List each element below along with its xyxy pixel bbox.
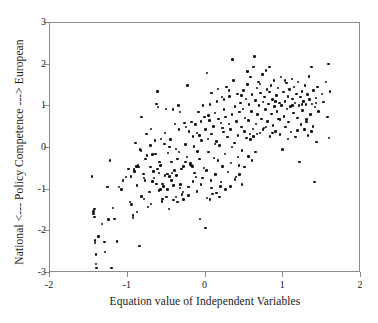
data-point [161, 200, 164, 203]
data-point [196, 150, 199, 153]
data-point [172, 199, 175, 202]
data-point [186, 156, 189, 159]
data-point [174, 123, 177, 126]
data-point [277, 87, 280, 90]
data-point [183, 122, 186, 125]
data-point [199, 218, 202, 221]
data-point [160, 138, 163, 141]
data-point [327, 63, 330, 66]
data-point [250, 110, 253, 113]
data-point [259, 83, 262, 86]
scatter-plot-figure: National <--- Policy Competence ---> Eur… [0, 0, 378, 323]
data-point [283, 115, 286, 118]
data-point [273, 105, 276, 108]
data-point [204, 128, 207, 131]
data-point [218, 196, 221, 199]
data-point [172, 108, 175, 111]
data-point [259, 132, 262, 135]
data-point [252, 128, 255, 131]
data-point [243, 166, 246, 169]
data-point [103, 241, 106, 244]
data-point [101, 223, 104, 226]
data-point [149, 166, 152, 169]
data-point [259, 92, 262, 95]
data-point [132, 217, 135, 220]
data-point [161, 198, 164, 201]
data-point [249, 133, 252, 136]
data-point [178, 151, 181, 154]
data-point [279, 133, 282, 136]
data-point [216, 100, 219, 103]
data-point [136, 184, 139, 187]
data-point [200, 183, 203, 186]
data-point [274, 130, 277, 133]
data-point [171, 172, 174, 175]
data-point [293, 86, 296, 89]
data-point [287, 95, 290, 98]
data-point [109, 159, 112, 162]
data-point [179, 111, 182, 114]
data-point [272, 124, 275, 127]
data-point [185, 126, 188, 129]
data-point [207, 151, 210, 154]
data-point [95, 263, 98, 266]
data-point [150, 128, 153, 131]
data-point [143, 198, 146, 201]
data-point [311, 103, 314, 106]
data-point [151, 153, 154, 156]
data-point [291, 98, 294, 101]
data-point [156, 168, 159, 171]
data-point [275, 94, 278, 97]
data-point [274, 100, 277, 103]
data-point [177, 104, 180, 107]
data-point [232, 79, 235, 82]
data-point [113, 218, 116, 221]
data-point [193, 172, 196, 175]
data-point [175, 196, 178, 199]
data-point [310, 66, 313, 69]
data-point [204, 227, 207, 230]
y-tick-label: -3 [22, 267, 46, 277]
data-point [130, 203, 133, 206]
data-point [154, 153, 157, 156]
data-point [210, 187, 213, 190]
data-point [181, 193, 184, 196]
data-point [266, 120, 269, 123]
data-point [187, 194, 190, 197]
data-point [201, 177, 204, 180]
data-point [234, 178, 237, 181]
data-point [251, 159, 254, 162]
data-point [295, 93, 298, 96]
data-point [243, 130, 246, 133]
data-point [301, 103, 304, 106]
data-point [159, 188, 162, 191]
data-point [249, 138, 252, 141]
data-point [246, 70, 249, 73]
data-point [223, 98, 226, 101]
data-point [302, 100, 305, 103]
data-point [210, 179, 213, 182]
data-point [217, 118, 220, 121]
data-point [179, 187, 182, 190]
data-point [161, 183, 164, 186]
data-point [162, 185, 165, 188]
data-point [229, 185, 232, 188]
data-point [207, 114, 210, 117]
data-point [147, 206, 150, 209]
data-point [179, 183, 182, 186]
data-point [231, 113, 234, 116]
data-point [172, 184, 175, 187]
data-point [279, 118, 282, 121]
data-point [306, 93, 309, 96]
data-point [248, 103, 251, 106]
data-point [238, 111, 241, 114]
data-point [287, 138, 290, 141]
data-point [219, 185, 222, 188]
data-point [224, 188, 227, 191]
data-point [301, 109, 304, 112]
y-tick-label: 3 [22, 17, 46, 27]
data-point [159, 164, 162, 167]
data-point [238, 164, 241, 167]
data-point [188, 130, 191, 133]
data-point [165, 108, 168, 111]
